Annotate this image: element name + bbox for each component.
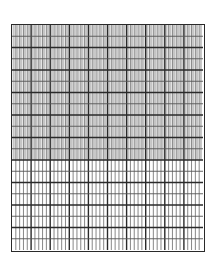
graph-paper-grid [11, 24, 205, 252]
grid-lines [12, 25, 203, 250]
